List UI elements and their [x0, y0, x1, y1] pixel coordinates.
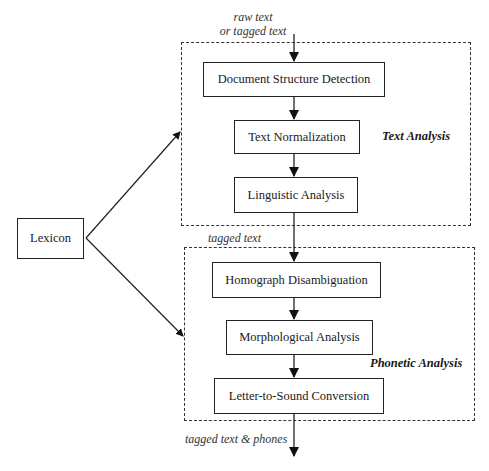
arrow-lexicon-to-text-analysis — [86, 132, 180, 238]
morphological-analysis-box: Morphological Analysis — [226, 320, 373, 355]
text-analysis-label: Text Analysis — [382, 129, 450, 144]
input-label-line1: raw text — [218, 10, 288, 24]
step-label: Document Structure Detection — [218, 72, 371, 87]
step-label: Linguistic Analysis — [248, 188, 345, 203]
lexicon-label: Lexicon — [30, 231, 71, 246]
output-label: tagged text & phones — [185, 432, 287, 447]
tagged-text-label: tagged text — [208, 231, 261, 246]
letter-to-sound-conversion-box: Letter-to-Sound Conversion — [214, 378, 384, 414]
step-label: Morphological Analysis — [239, 330, 359, 345]
input-label-line2: or tagged text — [218, 24, 288, 38]
input-label: raw text or tagged text — [218, 10, 288, 38]
step-label: Homograph Disambiguation — [225, 273, 368, 288]
lexicon-box: Lexicon — [17, 218, 84, 259]
step-label: Text Normalization — [248, 130, 345, 145]
text-normalization-box: Text Normalization — [234, 120, 360, 154]
document-structure-detection-box: Document Structure Detection — [203, 62, 385, 97]
arrow-lexicon-to-phonetic-analysis — [86, 238, 183, 336]
step-label: Letter-to-Sound Conversion — [229, 389, 369, 404]
homograph-disambiguation-box: Homograph Disambiguation — [212, 262, 381, 298]
linguistic-analysis-box: Linguistic Analysis — [234, 177, 358, 213]
phonetic-analysis-label: Phonetic Analysis — [370, 356, 462, 371]
